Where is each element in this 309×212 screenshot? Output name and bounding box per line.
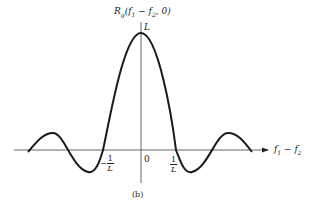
sinc-curve bbox=[28, 33, 252, 172]
correlation-plot bbox=[0, 0, 309, 212]
origin-label: 0 bbox=[144, 154, 150, 164]
x-axis-label: f1 − f2 bbox=[274, 144, 302, 156]
peak-label: L bbox=[144, 22, 150, 32]
tick-label-pos-1-over-L: 1L bbox=[170, 154, 177, 174]
panel-label: (b) bbox=[132, 190, 143, 199]
y-axis-label: Rg(f1 − f2, 0) bbox=[114, 6, 171, 18]
tick-label-neg-1-over-L: − 1L bbox=[100, 154, 114, 173]
